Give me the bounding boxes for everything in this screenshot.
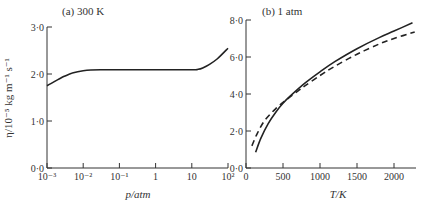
svg-text:1: 1: [153, 171, 158, 182]
panel-b-solid-curve: [256, 23, 413, 153]
panel-a-curve: [47, 48, 228, 86]
svg-text:6·0: 6·0: [230, 52, 243, 63]
panel-a-x-label: p/atm: [124, 188, 150, 200]
svg-text:3·0: 3·0: [31, 22, 44, 33]
panel-a-y-ticks: 0·01·02·03·0: [31, 22, 52, 174]
svg-text:2·0: 2·0: [31, 69, 44, 80]
svg-text:0·0: 0·0: [230, 163, 243, 174]
svg-text:4·0: 4·0: [230, 89, 243, 100]
panel-b-y-ticks: 0·02·04·06·08·0: [230, 15, 251, 174]
svg-text:10⁻³: 10⁻³: [38, 171, 56, 182]
svg-text:500: 500: [276, 171, 291, 182]
panel-a-viscosity-vs-pressure: (a) 300 K 0·01·02·03·0 10⁻³10⁻²10⁻¹11010…: [2, 5, 235, 200]
panel-a-y-label: η/10⁻⁵ kg m⁻¹ s⁻¹: [2, 58, 14, 138]
panel-b-x-label: T/K: [330, 188, 347, 200]
panel-b-x-ticks: 0500100015002000: [244, 163, 405, 182]
svg-text:10⁻¹: 10⁻¹: [110, 171, 128, 182]
panel-a-title: (a) 300 K: [62, 5, 104, 18]
panel-b-title: (b) 1 atm: [262, 5, 303, 18]
svg-text:1·0: 1·0: [31, 116, 44, 127]
svg-text:1500: 1500: [347, 171, 367, 182]
svg-text:0: 0: [244, 171, 249, 182]
svg-text:10⁻²: 10⁻²: [74, 171, 92, 182]
svg-text:10: 10: [187, 171, 197, 182]
panel-b-dashed-curve: [252, 32, 415, 146]
panel-a-x-ticks: 10⁻³10⁻²10⁻¹11010²: [38, 163, 235, 182]
svg-text:2·0: 2·0: [230, 126, 243, 137]
svg-text:1000: 1000: [310, 171, 330, 182]
svg-text:2000: 2000: [384, 171, 404, 182]
figure: (a) 300 K 0·01·02·03·0 10⁻³10⁻²10⁻¹11010…: [0, 0, 428, 205]
panel-b-viscosity-vs-temperature: (b) 1 atm 0·02·04·06·08·0 05001000150020…: [230, 5, 416, 200]
svg-text:8·0: 8·0: [230, 15, 243, 26]
